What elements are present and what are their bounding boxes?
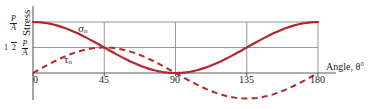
fraction-numerator: P <box>10 15 17 23</box>
x-tick-label-45: 45 <box>99 74 109 85</box>
tau-n-annotation: τn <box>64 54 72 66</box>
x-tick-label-0: 0 <box>33 74 38 85</box>
sigma-n-annotation: σn <box>78 23 87 35</box>
x-axis-label: Angle, θ° <box>326 62 364 72</box>
y-tick-label-pa: P A <box>10 14 17 32</box>
chart-canvas <box>0 0 376 109</box>
half-numerator: 1 <box>3 43 9 52</box>
fraction-p-over-a: P A <box>10 15 17 32</box>
stress-vs-angle-chart: Stress P A 1 2 P A 0 45 90 135 180 Angle… <box>0 0 376 109</box>
x-tick-label-90: 90 <box>170 74 180 85</box>
sigma-subscript: n <box>84 27 88 35</box>
fraction-denominator: A <box>10 23 17 32</box>
fraction-numerator: P <box>22 40 29 48</box>
fraction-denominator: A <box>22 48 29 57</box>
y-axis-label: Stress <box>21 10 32 36</box>
y-tick-label-half-pa: 1 2 P A <box>3 39 28 57</box>
x-tick-label-180: 180 <box>310 74 325 85</box>
tau-subscript: n <box>68 58 72 66</box>
axis-lines <box>33 6 336 100</box>
half-denominator: 2 <box>11 42 17 52</box>
x-tick-label-135: 135 <box>239 74 254 85</box>
grid-lines <box>33 22 318 73</box>
fraction-one-half: 1 2 <box>3 44 17 52</box>
fraction-p-over-a-half: P A <box>22 40 29 57</box>
